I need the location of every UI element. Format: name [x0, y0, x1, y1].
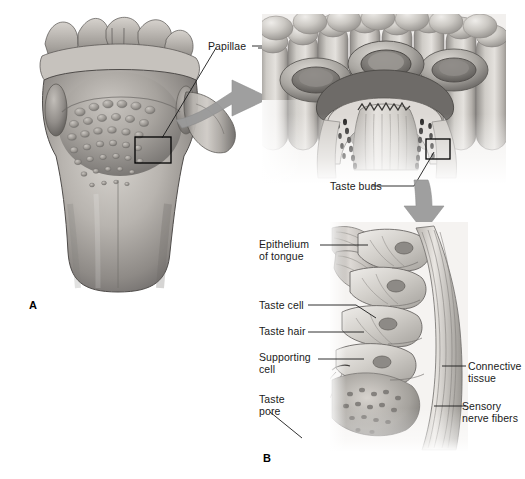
leader-line-taste-hair — [306, 326, 368, 340]
label-epithelium-of-tongue: Epithelium of tongue — [259, 238, 309, 262]
label-taste-hair: Taste hair — [259, 325, 306, 337]
figure-root: Papillae A — [0, 0, 525, 479]
label-supporting-cell: Supporting cell — [259, 351, 311, 375]
label-taste-cell: Taste cell — [259, 299, 304, 311]
leader-line-supporting-cell — [316, 352, 370, 368]
panel-letter-b: B — [263, 452, 271, 464]
label-taste-buds: Taste buds — [330, 180, 382, 192]
leader-line-epithelium — [318, 238, 374, 254]
leader-line-connective-tissue — [440, 360, 470, 374]
panel-letter-a: A — [29, 299, 37, 311]
label-taste-pore: Taste pore — [259, 393, 285, 417]
label-sensory-nerve-fibers: Sensory nerve fibers — [462, 400, 518, 424]
leader-line-taste-cell — [306, 300, 382, 324]
label-connective-tissue: Connective tissue — [468, 360, 522, 384]
label-papillae: Papillae — [208, 40, 246, 52]
